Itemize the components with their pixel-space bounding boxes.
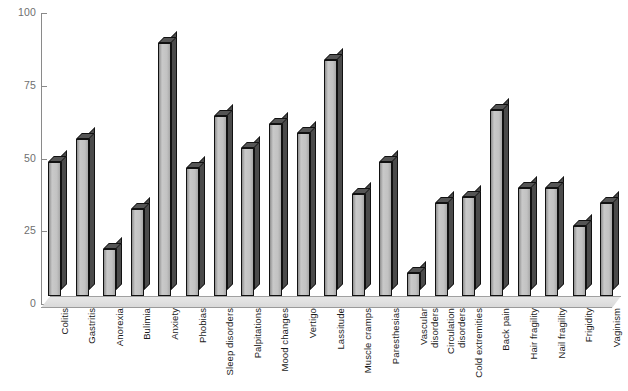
bar-side-face xyxy=(254,136,260,290)
bar xyxy=(435,197,454,296)
bar-front-face xyxy=(573,226,586,296)
bar-side-face xyxy=(586,214,592,290)
bar-front-face xyxy=(462,197,475,296)
bar-front-face xyxy=(76,139,89,296)
bar-side-face xyxy=(61,150,67,290)
bar-side-face xyxy=(503,98,509,290)
x-axis-labels: ColitisGastritisAnorexiaBulimiaAnxietyPh… xyxy=(41,308,621,391)
bar-side-face xyxy=(420,261,426,290)
bar-side-face xyxy=(282,112,288,290)
bar-front-face xyxy=(324,60,337,296)
bar-front-face xyxy=(518,188,531,296)
bar-side-face xyxy=(310,121,316,290)
bar xyxy=(545,182,564,296)
y-axis-tick-label: 0 xyxy=(0,297,36,310)
bar-front-face xyxy=(48,162,61,296)
x-axis-label: Nail fragility xyxy=(557,308,568,391)
x-axis-label: Muscle cramps xyxy=(363,308,374,391)
x-axis-label: Vascular disorders xyxy=(419,308,440,391)
x-axis-label: Frigidity xyxy=(584,308,595,391)
bar-side-face xyxy=(171,31,177,290)
bars-container xyxy=(41,13,621,308)
bar xyxy=(573,220,592,296)
bar xyxy=(379,156,398,296)
x-axis-label: Sleep disorders xyxy=(225,308,236,391)
bar xyxy=(269,118,288,296)
bar-front-face xyxy=(297,133,310,296)
bar xyxy=(214,110,233,296)
bar xyxy=(131,203,150,296)
x-axis-label: Vaginism xyxy=(612,308,623,391)
bar-front-face xyxy=(186,168,199,296)
bar-front-face xyxy=(545,188,558,296)
bar xyxy=(462,191,481,296)
x-axis-label: Anorexia xyxy=(115,308,126,391)
bar-side-face xyxy=(227,104,233,290)
x-axis-label: Circulation disorders xyxy=(446,308,467,391)
bar-front-face xyxy=(158,43,171,296)
bar-chart: 1007550250 ColitisGastritisAnorexiaBulim… xyxy=(0,0,628,391)
bar-side-face xyxy=(199,156,205,290)
bar xyxy=(518,182,537,296)
x-axis-label: Anxiety xyxy=(170,308,181,391)
bar-front-face xyxy=(352,194,365,296)
bar xyxy=(103,243,122,296)
x-axis-label: Gastritis xyxy=(87,308,98,391)
bar xyxy=(490,104,509,296)
x-axis-label: Back pain xyxy=(501,308,512,391)
x-axis-label: Hair fragility xyxy=(529,308,540,391)
bar xyxy=(352,188,371,296)
y-axis-tick-label: 100 xyxy=(0,6,36,19)
x-axis-label: Colitis xyxy=(60,308,71,391)
x-axis-label: Vertigo xyxy=(308,308,319,391)
x-axis-label: Cold extremities xyxy=(474,308,485,391)
x-axis-label: Mood changes xyxy=(280,308,291,391)
bar-side-face xyxy=(448,191,454,290)
bar-side-face xyxy=(613,191,619,290)
bar-side-face xyxy=(365,182,371,290)
y-axis-tick-label: 75 xyxy=(0,79,36,92)
bar-side-face xyxy=(144,197,150,290)
bar-front-face xyxy=(600,203,613,296)
bar xyxy=(600,197,619,296)
bar-side-face xyxy=(531,176,537,290)
x-axis-label: Paresthesias xyxy=(391,308,402,391)
bar xyxy=(241,142,260,296)
x-axis-label: Phobias xyxy=(198,308,209,391)
bar-front-face xyxy=(490,110,503,296)
bar-front-face xyxy=(269,124,282,296)
bar xyxy=(76,133,95,296)
bar xyxy=(407,267,426,296)
y-axis-tick-label: 50 xyxy=(0,152,36,165)
bar-side-face xyxy=(475,185,481,290)
x-axis-label: Bulimia xyxy=(142,308,153,391)
bar-side-face xyxy=(392,150,398,290)
bar-front-face xyxy=(435,203,448,296)
bar xyxy=(48,156,67,296)
bar-front-face xyxy=(241,148,254,296)
bar xyxy=(324,54,343,296)
bar-front-face xyxy=(214,116,227,296)
bar xyxy=(297,127,316,296)
bar-front-face xyxy=(407,273,420,296)
x-axis-label: Lassitude xyxy=(336,308,347,391)
y-axis-tick-label: 25 xyxy=(0,224,36,237)
bar-front-face xyxy=(103,249,116,296)
bar-front-face xyxy=(131,209,144,296)
x-axis-label: Palpitations xyxy=(253,308,264,391)
bar-side-face xyxy=(558,176,564,290)
bar xyxy=(186,162,205,296)
bar-side-face xyxy=(89,127,95,290)
bar-side-face xyxy=(337,48,343,290)
bar xyxy=(158,37,177,296)
bar-front-face xyxy=(379,162,392,296)
